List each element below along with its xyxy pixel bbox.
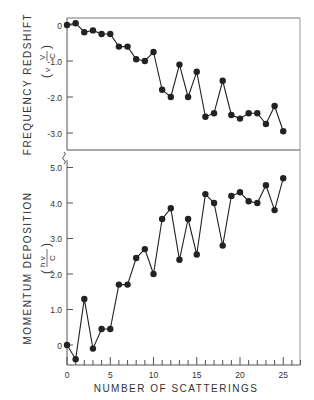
data-point: [124, 281, 130, 287]
top-y-ticks: 0-1.0-2.0-3.0: [47, 21, 73, 139]
x-tick-label: 5: [108, 370, 113, 380]
data-point: [237, 115, 243, 121]
data-point: [133, 255, 139, 261]
svg-text:(: (: [39, 270, 53, 274]
data-point: [185, 94, 191, 100]
data-point: [98, 31, 104, 37]
data-point: [90, 345, 96, 351]
data-point: [220, 78, 226, 84]
data-point: [142, 246, 148, 252]
data-point: [107, 31, 113, 37]
data-point: [202, 191, 208, 197]
data-point: [271, 207, 277, 213]
x-tick-label: 0: [65, 370, 70, 380]
data-point: [168, 205, 174, 211]
data-point: [90, 27, 96, 33]
data-point: [271, 103, 277, 109]
data-point: [211, 200, 217, 206]
data-point: [64, 342, 70, 348]
data-point: [263, 182, 269, 188]
top-panel: 0-1.0-2.0-3.0: [47, 18, 300, 150]
data-point: [107, 326, 113, 332]
data-point: [176, 257, 182, 263]
y-tick-label: 0: [57, 21, 62, 31]
bottom-x-ticks: 0510152025: [65, 357, 301, 380]
data-point: [228, 112, 234, 118]
data-point: [159, 87, 165, 93]
x-tick-label: 20: [235, 370, 245, 380]
data-point: [116, 281, 122, 287]
data-point: [168, 94, 174, 100]
data-point: [254, 110, 260, 116]
svg-text:): ): [39, 45, 53, 49]
y-tick-label: -2.0: [47, 93, 62, 103]
data-point: [64, 22, 70, 28]
data-point: [245, 110, 251, 116]
svg-text:ν: ν: [43, 68, 52, 72]
bottom-series: [64, 175, 287, 362]
data-point: [133, 56, 139, 62]
data-point: [280, 128, 286, 134]
y-tick-label: 5.0: [50, 163, 62, 173]
data-point: [150, 271, 156, 277]
svg-text:V: V: [38, 54, 47, 60]
data-point: [237, 189, 243, 195]
bottom-panel: 01.02.03.04.05.0 0510152025: [50, 150, 300, 380]
data-point: [116, 43, 122, 49]
axis-break-icon: [63, 152, 66, 164]
top-y-axis-label: FREQUENCY REDSHIFT: [22, 13, 33, 155]
y-tick-label: 3.0: [50, 234, 62, 244]
data-point: [150, 49, 156, 55]
data-point: [263, 121, 269, 127]
data-point: [185, 216, 191, 222]
data-point: [142, 58, 148, 64]
data-point: [176, 61, 182, 67]
data-point: [72, 356, 78, 362]
x-tick-label: 15: [192, 370, 202, 380]
data-point: [280, 175, 286, 181]
y-tick-label: 4.0: [50, 199, 62, 209]
x-tick-label: 10: [149, 370, 159, 380]
data-point: [211, 110, 217, 116]
y-tick-label: 1.0: [50, 305, 62, 315]
x-axis-label: NUMBER OF SCATTERINGS: [94, 383, 259, 394]
data-point: [72, 20, 78, 26]
svg-text:C: C: [48, 53, 57, 59]
top-series: [64, 20, 287, 134]
data-point: [220, 242, 226, 248]
data-point: [194, 69, 200, 75]
y-tick-label: -3.0: [47, 129, 62, 139]
data-point: [124, 43, 130, 49]
data-point: [159, 216, 165, 222]
bottom-y-axis-label: MOMENTUM DEPOSITION: [22, 192, 33, 345]
data-point: [81, 29, 87, 35]
data-point: [254, 200, 260, 206]
svg-text:): ): [39, 243, 53, 247]
data-point: [202, 114, 208, 120]
data-point: [81, 296, 87, 302]
svg-text:(: (: [39, 74, 53, 78]
data-point: [228, 193, 234, 199]
data-point: [245, 198, 251, 204]
y-tick-label: 0: [57, 341, 62, 351]
svg-text:h ν: h ν: [38, 256, 47, 267]
series-line: [67, 178, 283, 359]
data-point: [98, 326, 104, 332]
x-tick-label: 25: [279, 370, 289, 380]
svg-text:C: C: [48, 255, 57, 261]
chart-figure: 0-1.0-2.0-3.0 01.02.03.04.05.0 051015202…: [0, 0, 314, 400]
data-point: [194, 251, 200, 257]
